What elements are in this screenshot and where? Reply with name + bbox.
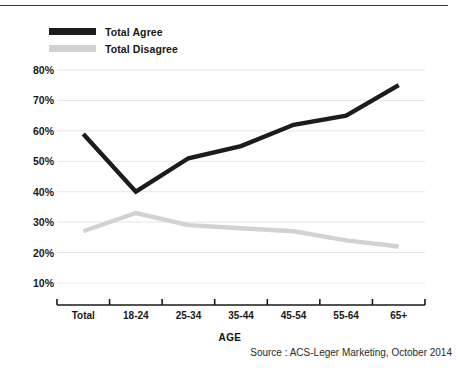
chart-figure: Total Agree Total Disagree 10%20%30%40%5… <box>0 0 460 371</box>
x-tick-35-44: 35-44 <box>228 310 254 321</box>
x-axis-tick-labels: Total18-2425-3435-4445-5455-6465+ <box>0 310 460 326</box>
x-tick-55-64: 55-64 <box>333 310 359 321</box>
x-axis-title: AGE <box>0 332 460 343</box>
x-tick-65-: 65+ <box>390 310 407 321</box>
x-tick-25-34: 25-34 <box>176 310 202 321</box>
x-tick-total: Total <box>72 310 95 321</box>
x-tick-45-54: 45-54 <box>281 310 307 321</box>
plot-area: 10%20%30%40%50%60%70%80% Total18-2425-34… <box>0 0 460 371</box>
x-tick-18-24: 18-24 <box>123 310 149 321</box>
source-note: Source : ACS-Leger Marketing, October 20… <box>250 347 452 358</box>
series-line-total-disagree <box>83 213 398 246</box>
series-line-total-agree <box>83 85 398 191</box>
